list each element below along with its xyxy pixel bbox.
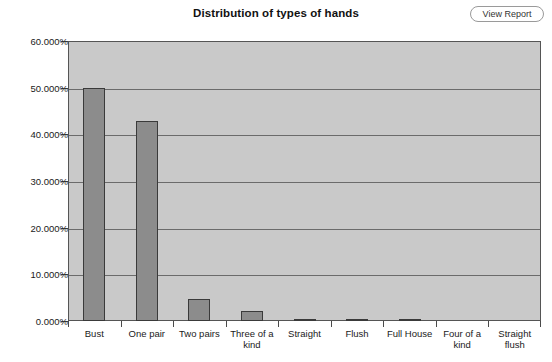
- y-tick-label: 40.000%: [10, 129, 68, 140]
- bar-series: [68, 41, 541, 321]
- y-tick-label: 30.000%: [10, 176, 68, 187]
- bar[interactable]: [136, 121, 158, 321]
- x-tick-label: One pair: [121, 328, 174, 339]
- x-tick-label: Full House: [383, 328, 436, 339]
- y-tick-label: 50.000%: [10, 82, 68, 93]
- x-tick-label: Bust: [68, 328, 121, 339]
- x-tick-mark: [173, 321, 174, 327]
- x-tick-mark: [488, 321, 489, 327]
- x-tick-label: Straight: [278, 328, 331, 339]
- x-tick-mark: [68, 321, 69, 327]
- bar[interactable]: [241, 311, 263, 321]
- x-tick-mark: [226, 321, 227, 327]
- x-tick-label: Two pairs: [173, 328, 226, 339]
- y-tick-label: 60.000%: [10, 36, 68, 47]
- x-tick-mark: [331, 321, 332, 327]
- x-axis: BustOne pairTwo pairsThree of a kindStra…: [68, 321, 541, 362]
- view-report-button[interactable]: View Report: [470, 6, 544, 22]
- y-axis: 0.000%10.000%20.000%30.000%40.000%50.000…: [0, 0, 68, 362]
- y-tick-label: 0.000%: [10, 316, 68, 327]
- bar[interactable]: [188, 299, 210, 321]
- x-tick-mark: [278, 321, 279, 327]
- x-tick-label: Flush: [331, 328, 384, 339]
- x-tick-label: Three of a kind: [226, 328, 279, 350]
- x-tick-label: Straight flush: [488, 328, 541, 350]
- x-tick-mark: [383, 321, 384, 327]
- y-tick-label: 20.000%: [10, 222, 68, 233]
- x-tick-mark: [121, 321, 122, 327]
- y-tick-label: 10.000%: [10, 269, 68, 280]
- x-tick-mark: [540, 321, 541, 327]
- x-tick-label: Four of a kind: [436, 328, 489, 350]
- bar[interactable]: [83, 88, 105, 321]
- x-tick-mark: [436, 321, 437, 327]
